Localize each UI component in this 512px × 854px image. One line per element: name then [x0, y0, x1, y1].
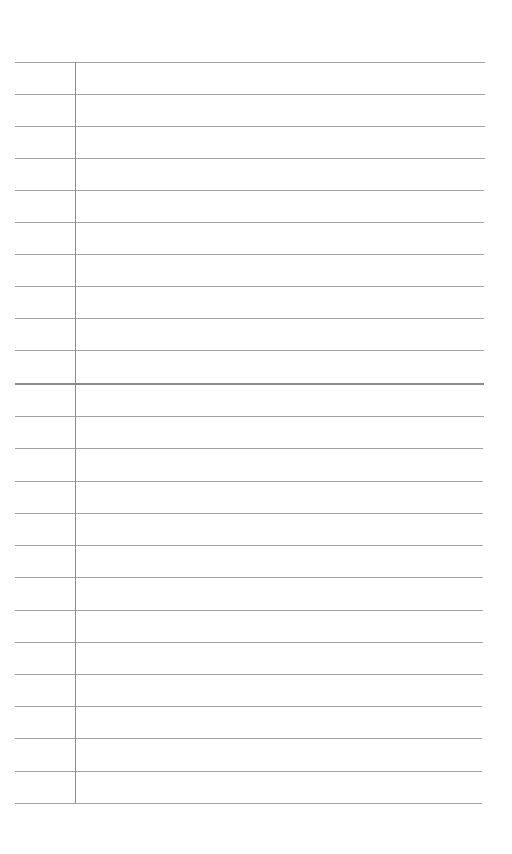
- ruled-line: [15, 94, 485, 95]
- ruled-line: [15, 448, 483, 449]
- ruled-line: [15, 126, 485, 127]
- ruled-line: [15, 383, 484, 385]
- ruled-line: [15, 190, 484, 191]
- ruled-line: [15, 158, 485, 159]
- page-text: [0, 0, 1, 1]
- notepad-page: [0, 0, 512, 854]
- ruled-line: [15, 254, 484, 255]
- ruled-line: [15, 545, 483, 546]
- ruled-line: [15, 350, 484, 351]
- ruled-line: [15, 481, 483, 482]
- ruled-line: [15, 513, 483, 514]
- ruled-line: [15, 318, 484, 319]
- ruled-line: [15, 674, 483, 675]
- ruled-line: [15, 286, 484, 287]
- ruled-line: [15, 577, 483, 578]
- ruled-line: [15, 62, 485, 63]
- ruled-line: [15, 803, 482, 804]
- ruled-line: [15, 771, 482, 772]
- ruled-line: [15, 610, 483, 611]
- ruled-line: [15, 642, 483, 643]
- ruled-line: [15, 222, 484, 223]
- margin-line: [75, 62, 76, 803]
- ruled-line: [15, 706, 482, 707]
- ruled-line: [15, 416, 484, 417]
- ruled-line: [15, 738, 482, 739]
